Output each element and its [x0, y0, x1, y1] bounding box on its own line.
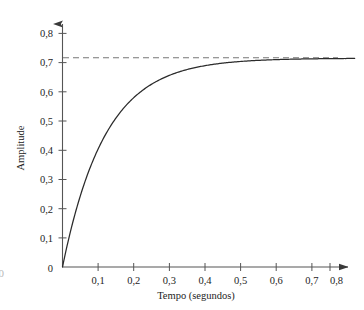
y-tick-label-0-5: 0,5: [40, 116, 53, 127]
y-tick-label-0-6: 0,6: [40, 87, 53, 98]
y-axis-title: Amplitude: [15, 125, 26, 170]
figure-container: 0,8 0,7 0,6 0,5 0,4 0,3 0,2 0,1 0 0,1 0,…: [0, 0, 364, 310]
axes-group: [63, 24, 349, 267]
y-tick-label-0-1: 0,1: [40, 233, 53, 244]
x-tick-label-0-1: 0,1: [92, 275, 105, 286]
figure-edge-number: 0: [0, 267, 5, 279]
y-tick-label-0-2: 0,2: [40, 204, 53, 215]
y-tick-label-0-7: 0,7: [40, 57, 53, 68]
y-tick-label-0-3: 0,3: [40, 174, 53, 185]
x-tick-label-0-7: 0,7: [305, 275, 318, 286]
x-axis-title: Tempo (segundos): [157, 290, 235, 302]
x-tick-label-0-6: 0,6: [270, 275, 283, 286]
y-tick-label-0-8: 0,8: [40, 28, 53, 39]
x-tick-label-0-2: 0,2: [127, 275, 140, 286]
x-tick-label-0-3: 0,3: [163, 275, 176, 286]
x-tick-label-0-5: 0,5: [234, 275, 247, 286]
y-axis-tick-labels: 0,8 0,7 0,6 0,5 0,4 0,3 0,2 0,1 0: [40, 28, 54, 273]
chart-canvas: 0,8 0,7 0,6 0,5 0,4 0,3 0,2 0,1 0 0,1 0,…: [0, 0, 364, 310]
y-tick-label-0: 0: [48, 263, 53, 274]
response-curve: [63, 58, 355, 267]
x-tick-label-0-8: 0,8: [330, 275, 343, 286]
x-axis-tick-labels: 0,1 0,2 0,3 0,4 0,5 0,6 0,7 0,8: [92, 275, 344, 286]
y-tick-label-0-4: 0,4: [40, 145, 54, 156]
x-tick-label-0-4: 0,4: [198, 275, 212, 286]
